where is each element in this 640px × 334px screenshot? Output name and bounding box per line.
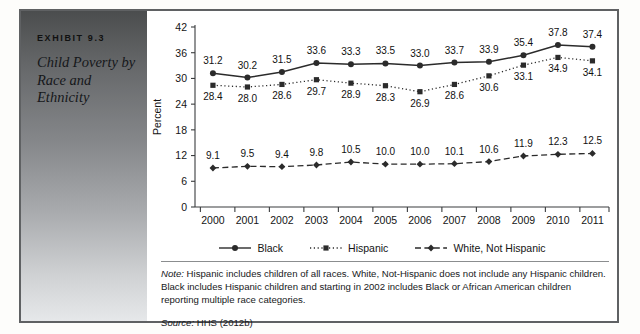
data-point — [244, 75, 250, 81]
data-point — [348, 159, 355, 166]
data-point — [451, 160, 458, 167]
data-point — [210, 70, 216, 76]
legend-swatch-icon — [414, 242, 448, 254]
legend-label: Black — [257, 242, 283, 254]
data-label: 35.4 — [514, 37, 534, 48]
legend-item-white-not-hispanic[interactable]: White, Not Hispanic — [414, 242, 545, 254]
exhibit-title: Child Poverty by Race and Ethnicity — [37, 54, 145, 107]
data-point — [313, 162, 320, 169]
section-divider — [161, 261, 609, 262]
data-label: 9.8 — [309, 147, 323, 158]
y-tick-label: 6 — [181, 175, 187, 187]
data-point — [589, 44, 595, 50]
data-label: 12.3 — [548, 136, 568, 147]
y-tick-label: 18 — [175, 124, 187, 136]
note-body: Hispanic includes children of all races.… — [161, 268, 606, 305]
chart-content-panel: 06121824303642Percent2000200120022003200… — [147, 11, 617, 321]
data-label: 37.4 — [583, 29, 603, 40]
notes-block: Note: Hispanic includes children of all … — [161, 267, 611, 329]
data-label: 34.1 — [583, 67, 603, 78]
data-point — [486, 59, 492, 65]
data-point — [555, 42, 561, 48]
data-point — [314, 77, 319, 82]
legend-swatch-icon — [309, 242, 343, 254]
data-label: 10.0 — [410, 146, 430, 157]
legend-item-hispanic[interactable]: Hispanic — [309, 242, 388, 254]
x-tick-label: 2004 — [339, 214, 363, 226]
data-point — [520, 153, 527, 160]
data-point — [313, 60, 319, 66]
data-label: 28.9 — [341, 89, 361, 100]
legend-item-black[interactable]: Black — [218, 242, 283, 254]
data-label: 33.7 — [445, 45, 465, 56]
data-point — [244, 163, 251, 170]
y-tick-label: 24 — [175, 98, 187, 110]
x-tick-label: 2003 — [305, 214, 329, 226]
data-label: 33.0 — [410, 48, 430, 59]
note-prefix: Note: — [161, 268, 184, 279]
data-point — [417, 63, 423, 69]
data-label: 12.5 — [583, 135, 603, 146]
series-line — [213, 45, 593, 78]
data-label: 28.0 — [238, 93, 258, 104]
series-line — [213, 153, 593, 168]
x-tick-label: 2001 — [236, 214, 260, 226]
data-point — [279, 69, 285, 75]
data-point — [210, 83, 215, 88]
data-label: 30.6 — [479, 82, 499, 93]
data-label: 33.6 — [307, 45, 327, 56]
y-tick-label: 0 — [181, 201, 187, 213]
series-hispanic: 28.428.028.629.728.928.326.928.630.633.1… — [203, 55, 602, 109]
source-prefix: Source: — [161, 317, 194, 328]
data-point — [382, 60, 388, 66]
y-axis-title: Percent — [151, 99, 163, 135]
data-label: 34.9 — [548, 63, 568, 74]
data-label: 10.6 — [479, 144, 499, 155]
data-point — [452, 82, 457, 87]
y-tick-label: 36 — [175, 47, 187, 59]
data-point — [210, 165, 217, 172]
x-tick-label: 2005 — [374, 214, 398, 226]
exhibit-label-panel: EXHIBIT 9.3 Child Poverty by Race and Et… — [21, 11, 147, 321]
exhibit-figure: EXHIBIT 9.3 Child Poverty by Race and Et… — [0, 0, 640, 334]
data-point — [521, 63, 526, 68]
data-label: 10.1 — [445, 146, 465, 157]
data-label: 37.8 — [548, 27, 568, 38]
data-point — [417, 161, 424, 168]
data-label: 33.5 — [376, 45, 396, 56]
data-label: 28.3 — [376, 92, 396, 103]
data-point — [417, 89, 422, 94]
data-point — [451, 60, 457, 66]
data-point — [383, 83, 388, 88]
data-label: 33.1 — [514, 71, 534, 82]
chart-legend: BlackHispanicWhite, Not Hispanic — [147, 237, 617, 259]
line-chart: 06121824303642Percent2000200120022003200… — [147, 11, 617, 243]
y-tick-label: 12 — [175, 149, 187, 161]
x-tick-label: 2006 — [408, 214, 432, 226]
x-tick-label: 2002 — [270, 214, 294, 226]
data-label: 29.7 — [307, 86, 327, 97]
legend-label: White, Not Hispanic — [453, 242, 545, 254]
data-point — [555, 55, 560, 60]
series-black: 31.230.231.533.633.333.533.033.733.935.4… — [203, 27, 602, 81]
data-point — [245, 84, 250, 89]
data-point — [486, 73, 491, 78]
data-label: 9.1 — [206, 150, 220, 161]
data-label: 10.5 — [341, 144, 361, 155]
data-label: 31.5 — [272, 54, 292, 65]
data-point — [520, 52, 526, 58]
y-tick-label: 30 — [175, 72, 187, 84]
x-tick-label: 2000 — [201, 214, 225, 226]
legend-label: Hispanic — [348, 242, 388, 254]
data-label: 26.9 — [410, 98, 430, 109]
data-label: 33.3 — [341, 46, 361, 57]
data-point — [348, 81, 353, 86]
data-label: 30.2 — [238, 60, 258, 71]
data-point — [348, 61, 354, 67]
x-tick-label: 2010 — [546, 214, 570, 226]
data-label: 28.6 — [445, 90, 465, 101]
data-point — [279, 82, 284, 87]
data-label: 28.6 — [272, 90, 292, 101]
data-point — [486, 158, 493, 165]
x-tick-label: 2008 — [477, 214, 501, 226]
